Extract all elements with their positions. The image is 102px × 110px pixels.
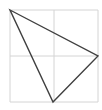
diagram-canvas bbox=[0, 0, 102, 110]
grid bbox=[10, 10, 98, 102]
